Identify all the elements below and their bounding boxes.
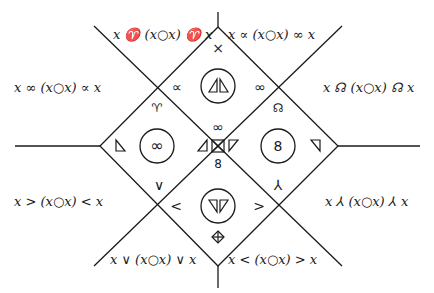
left-inner-triangle-icon <box>198 140 207 151</box>
label-left-upper: x ∞ (x○x) ∝ x <box>14 80 102 95</box>
circle-top <box>201 69 235 103</box>
symbol-upper-right-cross: ∞ <box>254 79 266 95</box>
symbol-upper-left-cross: ∝ <box>172 79 182 95</box>
top-circle-triangles-icon <box>209 79 228 92</box>
symbol-top-apex: × <box>212 40 224 56</box>
symbol-lower-left-above: ∨ <box>154 177 164 193</box>
label-right-lower: x ⅄ (x○x) ⅄ x <box>325 194 409 209</box>
circle-bottom <box>201 189 235 223</box>
label-bottom-left: x ∨ (x○x) ∨ x <box>110 252 197 267</box>
right-outer-triangle-icon <box>311 140 320 151</box>
label-bottom-right: x < (x○x) > x <box>228 252 318 267</box>
symbol-left-circle: ∞ <box>150 136 163 155</box>
right-inner-triangle-icon <box>229 140 238 151</box>
left-outer-triangle-icon <box>116 140 125 151</box>
symbol-upper-left-below: ♈ <box>152 101 163 115</box>
label-left-lower: x > (x○x) < x <box>14 194 104 209</box>
label-top-left: x ♈ (x○x) ♈ x <box>113 27 213 42</box>
symbol-center-top: ∞ <box>212 119 224 135</box>
lattice-diagram: × ∝ ∞ ♈ ☊ ∞ 8 ∞ 8 ∨ ⅄ < > x ♈ (x○x) ♈ x … <box>0 0 434 293</box>
label-right-upper: x ☊ (x○x) ☊ x <box>323 80 415 95</box>
symbol-lower-right-above: ⅄ <box>273 177 283 193</box>
label-top-right: x ∝ (x○x) ∞ x <box>228 27 316 42</box>
bottom-circle-triangles-icon <box>209 200 228 212</box>
circled-plus-icon <box>212 231 224 243</box>
symbol-center-bottom: 8 <box>214 157 222 171</box>
symbol-upper-right-below: ☊ <box>273 101 284 115</box>
symbol-lower-right-cross: > <box>253 198 265 214</box>
symbol-right-circle: 8 <box>274 138 283 154</box>
symbol-lower-left-cross: < <box>170 198 182 214</box>
center-boxed-x-icon <box>212 140 224 152</box>
